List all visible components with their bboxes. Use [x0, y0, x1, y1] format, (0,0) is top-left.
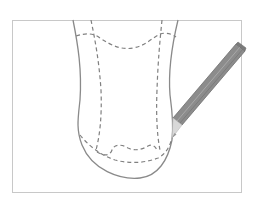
insole-drawing: [0, 0, 254, 203]
frame-border: [13, 21, 242, 193]
illustration-canvas: [0, 0, 254, 203]
